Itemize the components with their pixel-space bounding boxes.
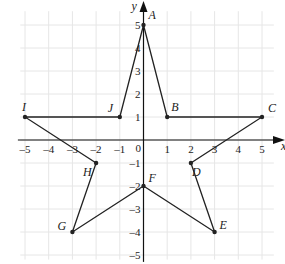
point-label-b: B <box>171 100 179 114</box>
y-tick-label: –4 <box>129 226 142 238</box>
point-label-a: A <box>148 8 157 22</box>
y-axis-arrow-icon <box>140 1 148 12</box>
point-i <box>23 115 27 119</box>
point-h <box>94 161 98 165</box>
origin-label: 0 <box>136 142 142 154</box>
x-tick-label: 5 <box>259 143 265 155</box>
y-axis-label: y <box>131 0 138 13</box>
x-tick-label: 1 <box>164 143 170 155</box>
point-label-d: D <box>191 165 201 179</box>
point-c <box>260 115 264 119</box>
y-tick-label: –1 <box>129 157 141 169</box>
y-tick-label: –3 <box>129 203 142 215</box>
point-label-j: J <box>108 101 114 115</box>
point-a <box>141 23 145 27</box>
y-tick-label: 5 <box>135 19 141 31</box>
point-j <box>118 115 122 119</box>
y-tick-label: –2 <box>129 180 141 192</box>
y-tick-label: 3 <box>135 65 141 77</box>
coordinate-plane: xy0–5–4–3–2–11234554321–1–2–3–4–5ABCDEFG… <box>0 0 285 264</box>
x-tick-label: –5 <box>19 143 32 155</box>
point-label-e: E <box>219 218 228 232</box>
point-label-f: F <box>148 171 157 185</box>
point-b <box>165 115 169 119</box>
x-axis-label: x <box>280 139 285 153</box>
y-tick-label: 2 <box>135 88 141 100</box>
point-label-h: H <box>82 165 93 179</box>
x-tick-label: 4 <box>236 143 242 155</box>
x-tick-label: –1 <box>113 143 125 155</box>
star-coordinate-diagram: xy0–5–4–3–2–11234554321–1–2–3–4–5ABCDEFG… <box>0 0 285 264</box>
point-label-g: G <box>57 219 66 233</box>
y-tick-label: –5 <box>129 249 142 261</box>
x-tick-label: –2 <box>90 143 102 155</box>
point-e <box>212 230 216 234</box>
point-f <box>141 184 145 188</box>
point-g <box>70 230 74 234</box>
x-tick-label: 2 <box>188 143 194 155</box>
point-label-i: I <box>21 100 27 114</box>
y-tick-label: 1 <box>135 111 141 123</box>
point-label-c: C <box>268 101 277 115</box>
x-tick-label: –4 <box>42 143 55 155</box>
